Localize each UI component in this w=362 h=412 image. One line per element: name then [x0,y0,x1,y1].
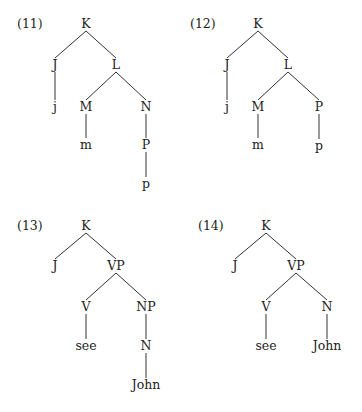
tree-node-j: j [225,101,229,114]
tree-edge [55,233,86,259]
tree-node-p: p [315,140,323,153]
tree-node-m: M [252,101,265,114]
tree-node-m: m [80,139,92,152]
tree-edge [55,31,86,58]
tree-node-j: j [53,101,57,114]
tree-edge [258,72,288,100]
tree-node-john: John [313,340,342,353]
example-label-12: (12) [190,18,216,31]
tree-node-k: K [81,220,90,233]
example-label-11: (11) [17,18,43,31]
tree-edge [227,31,258,58]
tree-node-p: P [315,101,323,114]
tree-node-vp: VP [107,260,124,273]
tree-edge [116,72,146,100]
tree-node-l: L [284,59,292,72]
tree-node-john: John [132,379,161,392]
tree-edge [296,273,327,300]
tree-edge [288,72,319,100]
tree-edge [86,31,116,58]
tree-edge [266,273,296,300]
tree-node-n: N [141,340,152,353]
tree-edge [235,233,266,259]
tree-edge [258,31,288,58]
tree-edge [86,233,116,259]
example-label-13: (13) [17,220,43,233]
tree-node-p: P [142,139,150,152]
tree-node-m: m [252,139,264,152]
tree-node-j: J [52,59,57,72]
tree-node-np: NP [136,301,155,314]
tree-node-p: p [142,178,150,191]
tree-node-j: J [232,260,237,273]
example-label-14: (14) [198,220,224,233]
tree-node-see: see [255,340,276,353]
tree-node-see: see [75,340,96,353]
tree-edge [266,233,296,259]
tree-node-v: V [81,301,90,314]
tree-node-k: K [253,18,262,31]
tree-node-v: V [261,301,270,314]
tree-edge [116,273,146,300]
tree-node-vp: VP [287,260,304,273]
tree-node-j: J [52,260,57,273]
tree-node-n: N [141,101,152,114]
tree-node-k: K [261,220,270,233]
tree-node-n: N [322,301,333,314]
tree-node-j: J [224,59,229,72]
tree-edge [86,273,116,300]
tree-node-k: K [81,18,90,31]
tree-edge [86,72,116,100]
tree-node-l: L [112,59,120,72]
tree-node-m: M [80,101,93,114]
tree-diagrams-figure: (11) KJLjMNmPp (12) KJLjMPmp (13) KJVPVN… [0,0,362,412]
